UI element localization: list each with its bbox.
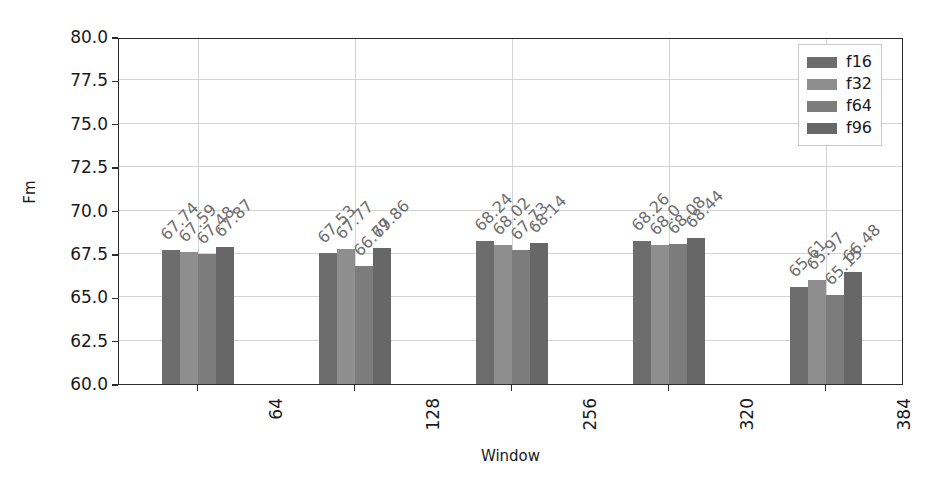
legend-swatch xyxy=(807,79,837,90)
bar-chart-figure: Fm Window 60.062.565.067.570.072.575.077… xyxy=(0,0,932,485)
bar xyxy=(530,243,548,384)
y-tick-label: 67.5 xyxy=(36,244,108,264)
legend-item[interactable]: f32 xyxy=(807,73,872,95)
y-tick-label: 70.0 xyxy=(36,201,108,221)
bar xyxy=(651,245,669,384)
bar xyxy=(669,244,687,384)
x-tick-mark xyxy=(354,385,355,391)
x-tick-label: 256 xyxy=(580,398,600,458)
legend-swatch xyxy=(807,57,837,68)
legend-item[interactable]: f96 xyxy=(807,117,872,139)
bar xyxy=(198,254,216,384)
bar xyxy=(494,245,512,384)
bar xyxy=(180,252,198,384)
x-tick-label: 128 xyxy=(423,398,443,458)
y-tick-label: 60.0 xyxy=(36,374,108,394)
gridline xyxy=(119,79,902,80)
bar xyxy=(319,253,337,384)
x-tick-mark xyxy=(197,385,198,391)
x-tick-mark xyxy=(668,385,669,391)
bar xyxy=(512,250,530,384)
x-tick-label: 320 xyxy=(737,398,757,458)
legend-item[interactable]: f16 xyxy=(807,51,872,73)
bar xyxy=(633,241,651,384)
x-tick-mark xyxy=(511,385,512,391)
x-axis-label: Window xyxy=(118,447,903,465)
legend-label: f32 xyxy=(846,76,872,92)
bar xyxy=(687,238,705,384)
y-tick-label: 62.5 xyxy=(36,331,108,351)
x-tick-label: 64 xyxy=(266,398,286,458)
bar xyxy=(373,248,391,384)
bar xyxy=(162,250,180,384)
y-tick-label: 75.0 xyxy=(36,114,108,134)
legend-label: f16 xyxy=(846,54,872,70)
plot-area: 67.7467.5967.4867.8767.5367.7766.7967.86… xyxy=(118,38,903,385)
legend-swatch xyxy=(807,101,837,112)
gridline xyxy=(119,123,902,124)
legend-label: f64 xyxy=(846,98,872,114)
y-tick-label: 65.0 xyxy=(36,287,108,307)
y-tick-label: 72.5 xyxy=(36,157,108,177)
legend-item[interactable]: f64 xyxy=(807,95,872,117)
legend[interactable]: f16f32f64f96 xyxy=(798,44,882,146)
y-tick-label: 77.5 xyxy=(36,70,108,90)
x-tick-label: 384 xyxy=(894,398,914,458)
legend-label: f96 xyxy=(846,120,872,136)
bar xyxy=(476,241,494,384)
bar xyxy=(337,249,355,384)
legend-swatch xyxy=(807,123,837,134)
bar xyxy=(216,247,234,384)
bar xyxy=(808,280,826,384)
y-tick-label: 80.0 xyxy=(36,27,108,47)
bar xyxy=(844,272,862,384)
x-tick-mark xyxy=(825,385,826,391)
gridline xyxy=(119,166,902,167)
bar xyxy=(355,266,373,384)
bar xyxy=(790,287,808,384)
bar xyxy=(826,295,844,384)
bar-value-label: 67.86 xyxy=(367,196,413,242)
